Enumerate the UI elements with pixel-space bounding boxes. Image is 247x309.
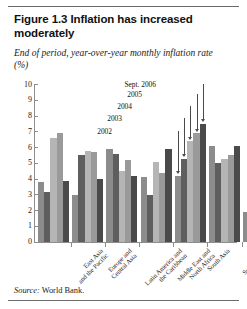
bar-group <box>72 84 103 242</box>
callout-arrowhead <box>201 119 205 122</box>
y-axis-tick <box>34 100 38 101</box>
x-axis-group-tick <box>173 242 174 247</box>
series-callout-label: 2005 <box>127 90 142 99</box>
source-text: World Bank. <box>42 286 85 295</box>
callout-arrowhead <box>182 154 186 157</box>
source-note: Source: World Bank. <box>14 286 84 295</box>
bar <box>234 146 240 242</box>
y-axis-tick-label: 4 <box>10 174 32 183</box>
y-axis-tick-label: 10 <box>10 80 32 89</box>
y-axis-tick <box>34 163 38 164</box>
bar <box>97 179 103 242</box>
bar <box>200 124 206 242</box>
callout-leader-line <box>190 106 191 137</box>
series-callout-label: 2002 <box>97 127 112 136</box>
x-axis-category-label: Europe andCentral Asia <box>104 247 138 281</box>
bar-group <box>209 84 240 242</box>
x-axis-group-tick <box>139 242 140 247</box>
bar <box>243 212 247 242</box>
callout-leader-line <box>184 118 185 154</box>
bar <box>165 149 171 242</box>
bar <box>63 181 69 242</box>
callout-leader-line <box>197 94 198 129</box>
x-axis-group-tick <box>71 242 72 247</box>
callout-leader-line <box>203 84 204 119</box>
figure-title: Figure 1.3 Inflation has increased moder… <box>14 12 228 40</box>
series-callout-label: 2003 <box>107 114 122 123</box>
y-axis-tick <box>34 242 38 243</box>
top-rule <box>8 6 239 7</box>
y-axis-labels: 012345678910 <box>8 78 32 248</box>
y-axis-tick-label: 5 <box>10 158 32 167</box>
x-axis-group-tick <box>242 242 243 247</box>
x-axis-group-tick <box>105 242 106 247</box>
y-axis-tick-label: 0 <box>10 237 32 246</box>
series-callout-label: Sept. 2006 <box>124 80 156 89</box>
chart-plot-area: 012345678910 East Asiaand the PacificEur… <box>8 78 239 253</box>
figure-container: Figure 1.3 Inflation has increased moder… <box>0 0 247 309</box>
y-axis-tick <box>34 194 38 195</box>
y-axis-tick-label: 6 <box>10 143 32 152</box>
x-axis-label-line: Sub-Saharan <box>241 247 247 276</box>
bar <box>131 176 137 242</box>
x-axis-group-tick <box>207 242 208 247</box>
bar-group <box>243 84 247 242</box>
y-axis-tick-label: 1 <box>10 221 32 230</box>
callout-arrowhead <box>176 171 180 174</box>
y-axis-tick <box>34 116 38 117</box>
y-axis-tick-label: 9 <box>10 95 32 104</box>
source-prefix: Source: <box>14 286 40 295</box>
y-axis-tick <box>34 147 38 148</box>
y-axis-tick-label: 2 <box>10 206 32 215</box>
y-axis-tick <box>34 179 38 180</box>
x-axis-category-label: Latin America andthe Caribbean <box>143 247 188 292</box>
bottom-rule <box>8 300 239 301</box>
y-axis-tick-label: 7 <box>10 127 32 136</box>
callout-arrowhead <box>195 129 199 132</box>
bar-group <box>38 84 69 242</box>
x-axis-category-label: Sub-SaharanAfrica <box>241 247 247 281</box>
x-axis-category-label: East Asiaand the Pacific <box>72 247 110 285</box>
y-axis-tick <box>34 131 38 132</box>
y-axis-tick <box>34 210 38 211</box>
callout-arrowhead <box>188 137 192 140</box>
y-axis-tick-label: 8 <box>10 111 32 120</box>
figure-subtitle: End of period, year-over-year monthly in… <box>14 48 224 71</box>
y-axis-tick <box>34 84 38 85</box>
callout-leader-line <box>178 131 179 171</box>
bar-group <box>141 84 172 242</box>
y-axis-tick-label: 3 <box>10 190 32 199</box>
series-callout-label: 2004 <box>117 102 132 111</box>
y-axis-tick <box>34 226 38 227</box>
